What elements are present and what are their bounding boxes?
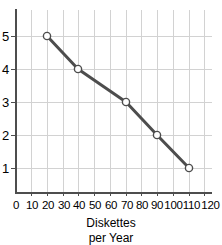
gridline-vertical [141,10,142,192]
y-axis-tick [11,102,16,103]
plot-area [16,10,212,192]
gridline-vertical [47,10,48,192]
gridline-vertical [110,10,111,192]
y-tick-label: 4 [0,63,9,76]
gridline-vertical [31,10,32,192]
x-axis-tick [157,192,158,196]
x-axis-line [15,192,212,194]
x-tick-label: 30 [56,200,72,212]
x-tick-label: 0 [9,200,23,212]
y-axis-tick [11,36,16,37]
gridline-vertical [63,10,64,192]
x-axis-tick [31,192,32,196]
x-tick-label: 40 [71,200,87,212]
x-tick-label: 110 [181,200,202,212]
x-tick-label: 60 [103,200,119,212]
gridline-horizontal [16,168,212,169]
y-tick-label: 2 [0,129,9,142]
x-axis-tick [173,192,174,196]
gridline-horizontal [16,135,212,136]
x-axis-tick [63,192,64,196]
x-tick-label: 20 [40,200,56,212]
x-tick-label: 70 [119,200,135,212]
line-chart: 5 4 3 2 1 0 10 20 30 40 50 60 70 80 90 1… [0,0,222,245]
x-axis-tick [110,192,111,196]
x-axis-title: Diskettes per Year [0,216,222,245]
gridline-vertical [126,10,127,192]
gridline-horizontal [16,36,212,37]
gridline-vertical [173,10,174,192]
y-tick-label: 3 [0,96,9,109]
x-axis-tick [47,192,48,196]
y-tick-label: 5 [0,30,9,43]
x-axis-title-line-2: per Year [0,231,222,245]
y-axis-tick [11,135,16,136]
gridline-vertical [204,10,205,192]
y-axis-tick [11,69,16,70]
gridline-vertical [157,10,158,192]
x-axis-tick [94,192,95,196]
x-axis-tick [78,192,79,196]
gridline-horizontal [16,102,212,103]
gridline-vertical [189,10,190,192]
y-axis-tick [11,168,16,169]
x-axis-tick [204,192,205,196]
gridline-vertical [94,10,95,192]
x-axis-tick [126,192,127,196]
x-axis-title-line-1: Diskettes [0,216,222,231]
x-tick-label: 10 [24,200,40,212]
gridline-vertical [78,10,79,192]
x-tick-label: 80 [134,200,150,212]
x-axis-tick [141,192,142,196]
x-axis-tick [189,192,190,196]
x-tick-label: 120 [200,200,221,212]
x-tick-label: 50 [87,200,103,212]
gridline-horizontal [16,69,212,70]
y-tick-label: 1 [0,162,9,175]
